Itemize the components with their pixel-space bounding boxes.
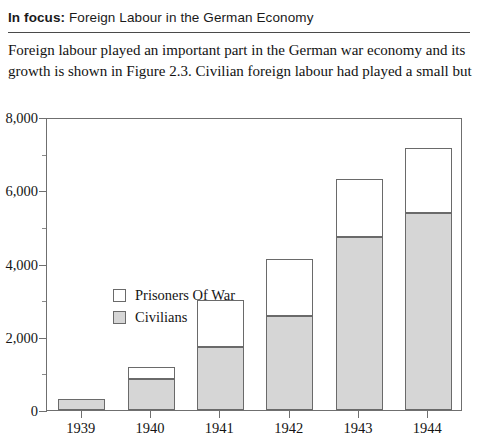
legend-label-prisoners: Prisoners Of War xyxy=(135,288,235,303)
x-axis-tick-label: 1939 xyxy=(51,420,111,436)
x-axis-tick xyxy=(427,411,428,418)
bar-segment-prisoners xyxy=(405,148,452,213)
y-axis-tick-label: 4,000 xyxy=(0,258,38,272)
bar-group xyxy=(58,399,105,410)
y-axis-tick-label: 6,000 xyxy=(0,184,38,198)
intro-line-1: Foreign labour played an important part … xyxy=(8,40,470,61)
x-axis-tick xyxy=(81,411,82,418)
bar-segment-prisoners xyxy=(266,259,313,316)
bar-segment-civilians xyxy=(128,379,175,410)
legend-swatch-civilians-icon xyxy=(113,311,126,324)
bar-group xyxy=(128,367,175,410)
x-axis-tick xyxy=(219,411,220,418)
legend-swatch-prisoners-icon xyxy=(113,289,126,302)
bar-group xyxy=(405,148,452,410)
bar-group xyxy=(336,179,383,410)
bar-segment-prisoners xyxy=(128,367,175,379)
y-axis-tick-label: 0 xyxy=(0,404,38,418)
bar-segment-civilians xyxy=(197,347,244,410)
x-axis-tick-label: 1941 xyxy=(189,420,249,436)
x-axis-tick-label: 1943 xyxy=(328,420,388,436)
y-axis-tick-label: 8,000 xyxy=(0,111,38,125)
x-axis-tick-label: 1942 xyxy=(259,420,319,436)
x-axis-tick xyxy=(289,411,290,418)
y-axis-tick-label: 2,000 xyxy=(0,331,38,345)
plot-area: Prisoners Of War Civilians xyxy=(46,118,462,411)
legend-item-prisoners: Prisoners Of War xyxy=(113,284,235,306)
bar-segment-civilians xyxy=(58,399,105,410)
bar-segment-civilians xyxy=(336,237,383,410)
bar-segment-civilians xyxy=(405,213,452,410)
page-title-rest: Foreign Labour in the German Economy xyxy=(65,10,313,25)
chart-legend: Prisoners Of War Civilians xyxy=(113,284,235,328)
page-title-lead: In focus: xyxy=(8,10,65,25)
x-axis-tick-label: 1940 xyxy=(120,420,180,436)
y-axis-labels: 02,0004,0006,0008,000 xyxy=(0,100,38,444)
figure-foreign-labour-chart: 02,0004,0006,0008,000 Prisoners Of War C… xyxy=(0,100,477,444)
bar-group xyxy=(266,259,313,410)
y-axis-major-tick xyxy=(39,411,47,412)
bar-segment-prisoners xyxy=(336,179,383,237)
legend-item-civilians: Civilians xyxy=(113,306,235,328)
bar-segment-civilians xyxy=(266,316,313,410)
intro-paragraph: Foreign labour played an important part … xyxy=(8,40,470,82)
page-title: In focus: Foreign Labour in the German E… xyxy=(8,8,466,27)
legend-label-civilians: Civilians xyxy=(135,310,187,325)
header-divider xyxy=(8,32,470,33)
x-axis-tick-label: 1944 xyxy=(397,420,457,436)
x-axis-tick xyxy=(150,411,151,418)
intro-line-2: growth is shown in Figure 2.3. Civilian … xyxy=(8,61,470,82)
x-axis-tick xyxy=(358,411,359,418)
